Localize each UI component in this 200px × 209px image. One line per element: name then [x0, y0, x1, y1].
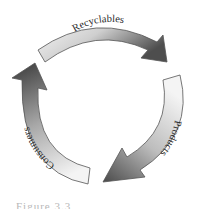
arrow-consumers: Consumers: [12, 63, 90, 184]
recycling-cycle-diagram: Recyclables Products Consumers: [0, 0, 200, 209]
arrow-recyclables: Recyclables: [38, 13, 167, 62]
arrow-products: Products: [103, 75, 184, 182]
figure-caption: Figure 3.3: [16, 203, 71, 209]
